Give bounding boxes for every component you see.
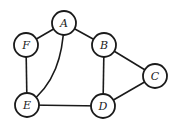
node-e: E [15,93,39,117]
node-c-label: C [151,70,160,83]
node-a: A [52,11,76,35]
node-c: C [143,64,167,88]
node-f: F [14,33,38,57]
node-f-label: F [21,39,30,52]
node-b: B [92,33,116,57]
node-a-label: A [59,17,68,30]
graph-diagram: A B C D E F [0,0,179,122]
node-e-label: E [22,99,31,112]
edges [26,23,155,106]
node-d: D [91,94,115,118]
node-b-label: B [99,39,108,52]
nodes: A B C D E F [14,11,167,118]
node-d-label: D [98,100,108,113]
